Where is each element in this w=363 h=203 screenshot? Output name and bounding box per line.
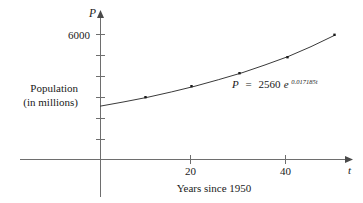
data-point-4 bbox=[286, 56, 288, 58]
y-axis-symbol: P bbox=[88, 7, 96, 19]
equation-exponent: 0.017185t bbox=[291, 78, 317, 85]
equation-base: e bbox=[284, 78, 289, 90]
equation-lhs-symbol: P bbox=[231, 78, 239, 90]
exponential-fit-curve bbox=[100, 36, 334, 107]
data-point-2 bbox=[190, 85, 192, 87]
exponential-population-growth-figure: P t 6000 20 40 Population (in millions) … bbox=[0, 0, 363, 203]
equation-lhs: P = 2560 e 0.017185t bbox=[231, 78, 318, 90]
x-axis-title: Years since 1950 bbox=[177, 182, 252, 194]
data-point-3 bbox=[238, 72, 240, 74]
chart-svg: P t 6000 20 40 Population (in millions) … bbox=[0, 0, 363, 203]
equation-annotation: P = 2560 e 0.017185t bbox=[231, 78, 318, 90]
x-axis-arrowhead bbox=[345, 156, 353, 163]
data-point-1 bbox=[144, 96, 146, 98]
data-point-5 bbox=[333, 34, 335, 36]
y-axis-title-line1: Population bbox=[30, 82, 78, 94]
x-tick-label-20: 20 bbox=[185, 165, 197, 177]
x-axis-symbol: t bbox=[348, 164, 352, 176]
y-axis-title-line2: (in millions) bbox=[23, 96, 78, 109]
equation-equals: = bbox=[245, 78, 251, 90]
equation-coefficient: 2560 bbox=[258, 78, 281, 90]
y-axis-arrowhead bbox=[97, 10, 104, 18]
y-tick-label-6000: 6000 bbox=[68, 29, 91, 41]
x-tick-label-40: 40 bbox=[280, 165, 292, 177]
